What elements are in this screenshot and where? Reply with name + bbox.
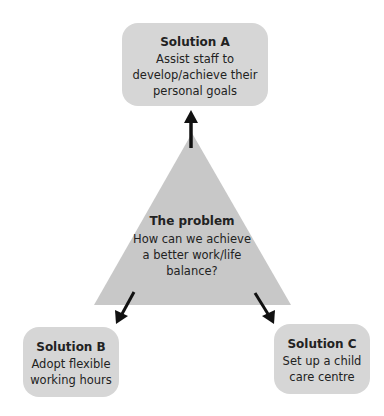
solution-line: working hours	[23, 372, 119, 388]
solution-c-title: Solution C	[274, 337, 370, 351]
solution-a-box: Solution A Assist staff to develop/achie…	[122, 23, 268, 106]
problem-text: How can we achieve a better work/life ba…	[112, 231, 272, 279]
problem-label: The problem How can we achieve a better …	[112, 214, 272, 279]
solution-line: Adopt flexible	[23, 356, 119, 372]
solution-b-title: Solution B	[23, 340, 119, 354]
solution-line: Set up a child	[274, 353, 370, 369]
solution-line: personal goals	[122, 83, 268, 99]
problem-line: a better work/life	[112, 247, 272, 263]
solution-b-box: Solution B Adopt flexible working hours	[23, 327, 119, 397]
problem-title: The problem	[112, 214, 272, 228]
solution-line: Assist staff to	[122, 51, 268, 67]
solution-b-text: Adopt flexible working hours	[23, 356, 119, 388]
solution-c-text: Set up a child care centre	[274, 353, 370, 385]
solution-a-text: Assist staff to develop/achieve their pe…	[122, 51, 268, 99]
problem-line: balance?	[112, 263, 272, 279]
solution-a-title: Solution A	[122, 35, 268, 49]
solution-line: care centre	[274, 369, 370, 385]
solution-line: develop/achieve their	[122, 67, 268, 83]
problem-line: How can we achieve	[112, 231, 272, 247]
solution-c-box: Solution C Set up a child care centre	[274, 324, 370, 394]
